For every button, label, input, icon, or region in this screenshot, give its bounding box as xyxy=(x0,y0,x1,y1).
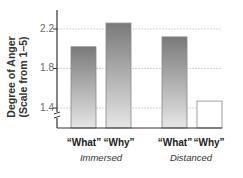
x-tick-label: “Why” xyxy=(189,137,229,148)
group-label-immersed: Immersed xyxy=(66,152,136,163)
axis-break-icon xyxy=(54,112,60,118)
y-tick-label: 1.4 xyxy=(28,102,54,113)
x-tick-label: “Why” xyxy=(99,137,139,148)
bar xyxy=(71,47,96,128)
y-axis-label-line-1: Degree of Anger xyxy=(5,7,17,147)
y-tick-label: 2.2 xyxy=(28,23,54,34)
y-tick-label: 1.8 xyxy=(28,62,54,73)
bar-chart: Degree of Anger (Scale from 1–5) 2.2 1.8… xyxy=(0,0,243,178)
bar xyxy=(106,23,131,128)
bar xyxy=(197,101,222,128)
x-tick-label: “What” xyxy=(64,137,104,148)
bar xyxy=(162,37,187,128)
bars xyxy=(71,23,222,128)
group-label-distanced: Distanced xyxy=(156,152,226,163)
